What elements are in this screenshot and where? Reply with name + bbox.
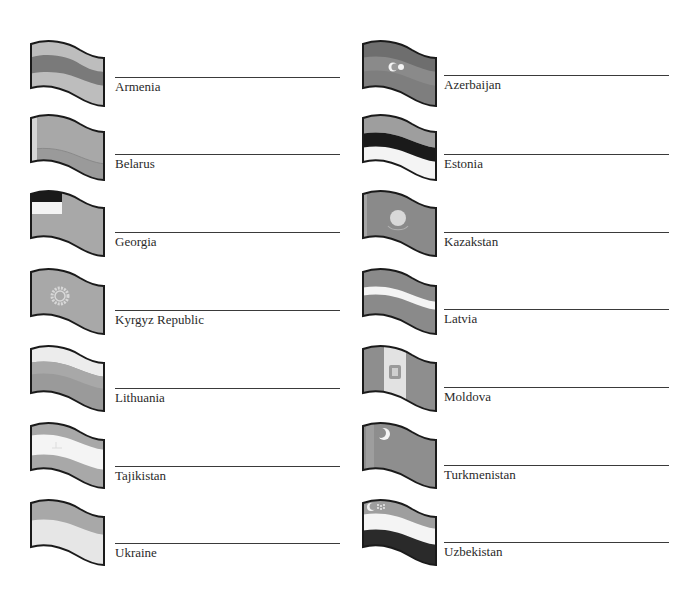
answer-line[interactable] <box>115 77 340 78</box>
answer-line[interactable] <box>444 309 669 310</box>
country-label: Armenia <box>115 80 160 94</box>
entry-ukraine: Ukraine <box>28 497 358 573</box>
country-label: Ukraine <box>115 546 157 560</box>
entry-kyrgyz-republic: Kyrgyz Republic <box>28 266 358 342</box>
tajikistan-flag-icon <box>28 420 106 492</box>
lithuania-flag-icon <box>28 343 106 415</box>
entry-turkmenistan: Turkmenistan <box>360 420 690 496</box>
answer-line[interactable] <box>444 465 669 466</box>
entry-tajikistan: Tajikistan <box>28 420 358 496</box>
entry-lithuania: Lithuania <box>28 343 358 419</box>
ukraine-flag-icon <box>28 497 106 569</box>
country-label: Belarus <box>115 157 155 171</box>
answer-line[interactable] <box>115 543 340 544</box>
country-label: Tajikistan <box>115 469 166 483</box>
answer-line[interactable] <box>444 154 669 155</box>
belarus-flag-icon <box>28 112 106 184</box>
answer-line[interactable] <box>444 542 669 543</box>
country-label: Uzbekistan <box>444 545 502 559</box>
entry-moldova: Moldova <box>360 343 690 419</box>
entry-azerbaijan: Azerbaijan <box>360 38 690 114</box>
flag-worksheet: Armenia Azerbaijan <box>0 0 699 599</box>
answer-line[interactable] <box>115 466 340 467</box>
entry-latvia: Latvia <box>360 266 690 342</box>
georgia-flag-icon <box>28 188 106 260</box>
entry-uzbekistan: Uzbekistan <box>360 497 690 573</box>
country-label: Latvia <box>444 312 477 326</box>
moldova-flag-icon <box>360 343 438 415</box>
estonia-flag-icon <box>360 112 438 184</box>
country-label: Georgia <box>115 235 157 249</box>
answer-line[interactable] <box>115 232 340 233</box>
entry-kazakstan: Kazakstan <box>360 188 690 264</box>
answer-line[interactable] <box>444 232 669 233</box>
country-label: Lithuania <box>115 391 165 405</box>
kazakstan-flag-icon <box>360 188 438 260</box>
uzbekistan-flag-icon <box>360 497 438 569</box>
latvia-flag-icon <box>360 266 438 338</box>
country-label: Kazakstan <box>444 235 498 249</box>
entry-estonia: Estonia <box>360 112 690 188</box>
entry-armenia: Armenia <box>28 38 358 114</box>
kyrgyz-republic-flag-icon <box>28 266 106 338</box>
country-label: Turkmenistan <box>444 468 516 482</box>
country-label: Kyrgyz Republic <box>115 313 204 327</box>
country-label: Estonia <box>444 157 483 171</box>
answer-line[interactable] <box>115 388 340 389</box>
armenia-flag-icon <box>28 38 106 110</box>
azerbaijan-flag-icon <box>360 38 438 110</box>
answer-line[interactable] <box>115 154 340 155</box>
answer-line[interactable] <box>444 75 669 76</box>
answer-line[interactable] <box>115 310 340 311</box>
turkmenistan-flag-icon <box>360 420 438 492</box>
entry-georgia: Georgia <box>28 188 358 264</box>
country-label: Azerbaijan <box>444 78 501 92</box>
answer-line[interactable] <box>444 387 669 388</box>
country-label: Moldova <box>444 390 491 404</box>
entry-belarus: Belarus <box>28 112 358 188</box>
